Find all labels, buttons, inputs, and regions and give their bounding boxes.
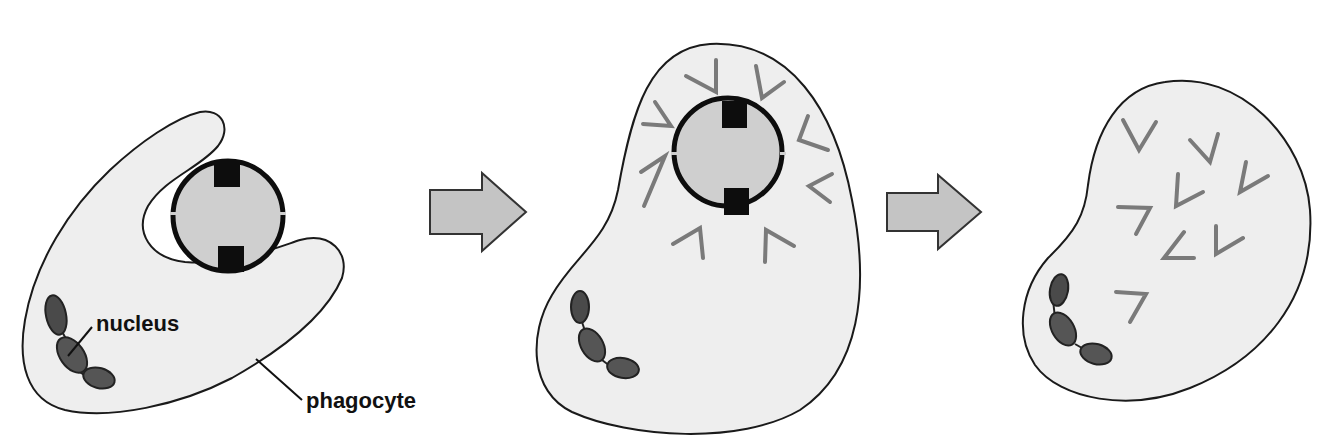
stage-engulfing: nucleus phagocyte	[23, 111, 416, 413]
stage-digested	[1023, 81, 1311, 401]
stage-digesting	[537, 44, 861, 434]
phagocytosis-diagram: nucleus phagocyte	[0, 0, 1332, 444]
nucleus-label: nucleus	[96, 311, 179, 336]
arrow-right-icon	[887, 175, 981, 249]
phagocyte-pointer-line	[256, 359, 302, 400]
phagocyte-cell-body	[537, 44, 861, 434]
phagocyte-label: phagocyte	[306, 388, 416, 413]
arrow-right-icon	[430, 173, 526, 251]
bacterium	[170, 161, 286, 272]
phagocyte-cell-body	[1023, 81, 1311, 401]
